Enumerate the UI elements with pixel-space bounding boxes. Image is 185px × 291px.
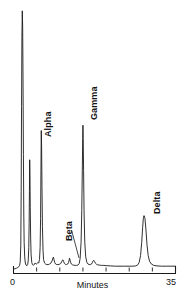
trace-group [14, 11, 176, 269]
chromatogram-plot [0, 0, 185, 291]
detector-response-trace [14, 11, 176, 269]
chromatogram-figure: Alpha Beta Gamma Delta 0 35 Minutes [0, 0, 185, 291]
axis-tick-marks [37, 268, 153, 272]
peak-label-delta: Delta [153, 191, 162, 214]
peak-label-beta: Beta [65, 221, 74, 241]
peak-label-alpha: Alpha [44, 111, 53, 137]
peak-label-gamma: Gamma [90, 86, 99, 120]
x-axis [13, 266, 176, 274]
axis-title: Minutes [0, 281, 185, 290]
